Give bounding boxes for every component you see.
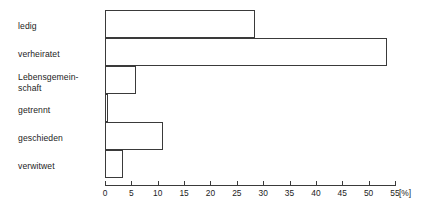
- bar-chart: ledig verheiratet Lebensgemein- schaft g…: [0, 0, 429, 210]
- bar-getrennt: [105, 94, 108, 122]
- category-axis-labels: ledig verheiratet Lebensgemein- schaft g…: [0, 0, 100, 210]
- x-axis-tick-label: 35: [285, 188, 294, 198]
- bar-lebensgemeinschaft: [105, 66, 136, 94]
- x-axis-tick: [369, 181, 370, 186]
- category-label-ledig: ledig: [18, 21, 106, 32]
- x-axis-tick-label: 30: [259, 188, 268, 198]
- x-axis-tick-label: 50: [364, 188, 373, 198]
- x-axis-unit-label: [%]: [399, 188, 411, 198]
- x-axis-tick-label: 0: [103, 188, 108, 198]
- x-axis-tick-label: 10: [153, 188, 162, 198]
- x-axis-tick: [290, 181, 291, 186]
- x-axis-tick-label: 15: [179, 188, 188, 198]
- x-axis-tick: [237, 181, 238, 186]
- x-axis-tick: [342, 181, 343, 186]
- x-axis-tick: [158, 181, 159, 186]
- category-label-lebensgemeinschaft: Lebensgemein- schaft: [18, 72, 106, 93]
- category-label-verwitwet: verwitwet: [18, 161, 106, 172]
- x-axis-line: [105, 185, 395, 186]
- category-label-geschieden: geschieden: [18, 133, 106, 144]
- bar-verheiratet: [105, 38, 387, 66]
- x-axis-tick: [263, 181, 264, 186]
- x-axis-tick: [105, 181, 106, 186]
- bar-ledig: [105, 10, 255, 38]
- x-axis-tick-label: 5: [129, 188, 134, 198]
- category-label-verheiratet: verheiratet: [18, 49, 106, 60]
- x-axis-tick: [131, 181, 132, 186]
- x-axis-tick-label: 40: [311, 188, 320, 198]
- category-label-getrennt: getrennt: [18, 105, 106, 116]
- x-axis-tick: [316, 181, 317, 186]
- plot-area: [105, 10, 395, 178]
- x-axis-tick-label: 20: [206, 188, 215, 198]
- x-axis-tick-label: 45: [338, 188, 347, 198]
- x-axis-tick: [184, 181, 185, 186]
- x-axis-tick: [210, 181, 211, 186]
- x-axis-tick-label: 25: [232, 188, 241, 198]
- bar-verwitwet: [105, 150, 123, 178]
- bar-geschieden: [105, 122, 163, 150]
- x-axis-tick: [395, 181, 396, 186]
